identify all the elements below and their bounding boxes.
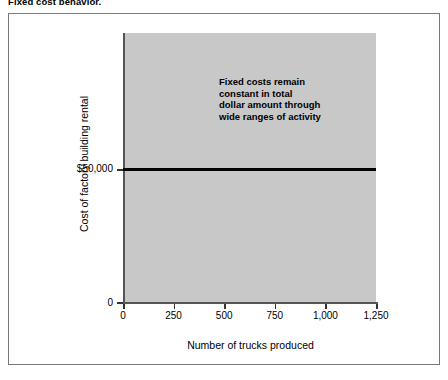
annotation-line-2: constant in total bbox=[219, 88, 321, 100]
annotation-line-3: dollar amount through bbox=[219, 99, 321, 111]
x-tick-label-1250: 1,250 bbox=[352, 310, 400, 321]
fixed-cost-line bbox=[123, 168, 376, 171]
x-tick-mark-0 bbox=[123, 304, 125, 309]
x-tick-mark-1250 bbox=[376, 304, 378, 309]
x-tick-mark-500 bbox=[224, 304, 226, 309]
figure-frame: Fixed costs remain constant in total dol… bbox=[8, 13, 440, 365]
x-axis-line bbox=[123, 302, 378, 304]
y-tick-mark-50000 bbox=[117, 169, 123, 171]
y-tick-label-0: 0 bbox=[49, 297, 113, 308]
x-tick-label-1000: 1,000 bbox=[301, 310, 349, 321]
x-tick-label-500: 500 bbox=[200, 310, 248, 321]
x-axis-title: Number of trucks produced bbox=[123, 339, 378, 351]
figure-title: Fixed cost behavior. bbox=[8, 0, 101, 7]
x-tick-mark-750 bbox=[275, 304, 277, 309]
x-tick-mark-250 bbox=[174, 304, 176, 309]
x-tick-mark-1000 bbox=[325, 304, 327, 309]
fixed-cost-annotation: Fixed costs remain constant in total dol… bbox=[219, 76, 321, 122]
chart-canvas: Fixed costs remain constant in total dol… bbox=[9, 14, 441, 366]
annotation-line-1: Fixed costs remain bbox=[219, 76, 321, 88]
x-tick-label-0: 0 bbox=[99, 310, 147, 321]
annotation-line-4: wide ranges of activity bbox=[219, 111, 321, 123]
x-tick-label-250: 250 bbox=[150, 310, 198, 321]
x-tick-label-750: 750 bbox=[251, 310, 299, 321]
y-axis-title: Cost of factory building rental bbox=[78, 49, 90, 279]
